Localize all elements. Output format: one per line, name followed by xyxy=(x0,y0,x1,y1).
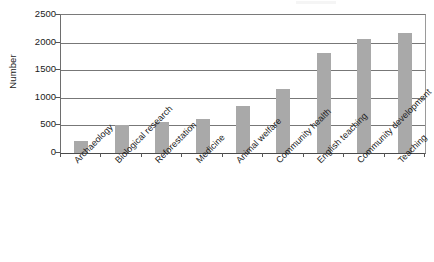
x-axis-category-label: Reforestation xyxy=(153,120,198,165)
x-axis-category-label: Community development xyxy=(355,87,433,165)
x-axis-category-label: Archaeology xyxy=(72,122,115,165)
x-axis-category-label: Teaching xyxy=(396,132,429,165)
x-axis-category-label: Medicine xyxy=(194,132,227,165)
bar-chart: Number 25002000150010005000 ArchaeologyB… xyxy=(0,0,434,262)
x-axis-category-labels: ArchaeologyBiological researchReforestat… xyxy=(0,0,434,262)
